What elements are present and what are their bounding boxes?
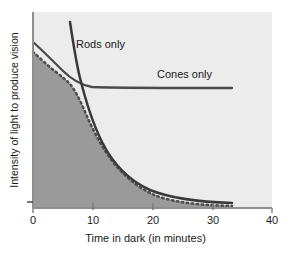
y-axis-title: Intensity of light to produce vision xyxy=(8,10,20,210)
annotation-rods-only: Rods only xyxy=(76,38,125,50)
x-tick-label-0: 0 xyxy=(23,214,43,226)
x-axis-title: Time in dark (in minutes) xyxy=(0,232,291,244)
dark-adaptation-chart: 0 10 20 30 40 Time in dark (in minutes) … xyxy=(0,0,291,256)
x-tick-label-40: 40 xyxy=(262,214,282,226)
x-tick-label-30: 30 xyxy=(203,214,223,226)
x-tick-label-10: 10 xyxy=(83,214,103,226)
x-tick-label-20: 20 xyxy=(143,214,163,226)
annotation-cones-only: Cones only xyxy=(157,68,212,80)
